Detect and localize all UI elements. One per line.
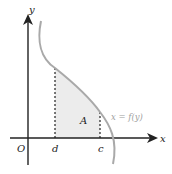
- x-axis-label: x: [160, 133, 166, 144]
- region-label-a: A: [79, 115, 87, 126]
- y-axis-label: y: [28, 4, 35, 15]
- c-label: c: [98, 143, 104, 154]
- curve-label: x = f(y): [111, 112, 143, 122]
- origin-label: O: [17, 143, 25, 154]
- d-label: d: [52, 143, 58, 154]
- area-diagram: y x O d c A x = f(y): [0, 0, 172, 174]
